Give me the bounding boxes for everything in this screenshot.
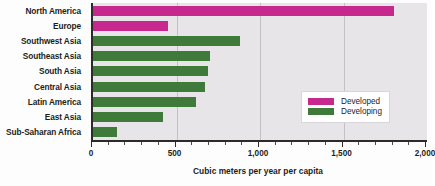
category-label: South Asia [0, 64, 86, 79]
bar-row [93, 49, 427, 64]
bar-east-asia [93, 112, 163, 122]
minor-tick-100 [108, 142, 109, 145]
minor-tick-1100 [275, 142, 276, 145]
category-axis: North America Europe Southwest Asia Sout… [0, 3, 86, 140]
minor-tick-1800 [392, 142, 393, 145]
bar-europe [93, 21, 168, 31]
major-tick-1500 [342, 142, 343, 147]
major-tick-1000 [258, 142, 259, 147]
category-label: Sub-Saharan Africa [0, 125, 86, 140]
major-tick-2000 [425, 142, 426, 147]
bar-row [93, 64, 427, 79]
bar-central-asia [93, 82, 205, 92]
legend-item-developed: Developed [308, 97, 382, 106]
bar-row [93, 33, 427, 48]
minor-tick-1300 [308, 142, 309, 145]
category-label: East Asia [0, 110, 86, 125]
bar-southeast-asia [93, 51, 210, 61]
minor-tick-1600 [358, 142, 359, 145]
category-label: Southeast Asia [0, 49, 86, 64]
category-label: Latin America [0, 94, 86, 109]
category-label: Southwest Asia [0, 33, 86, 48]
legend-swatch-icon [308, 108, 334, 115]
bar-sub-saharan-africa [93, 127, 117, 137]
bar-south-asia [93, 66, 208, 76]
minor-tick-1900 [408, 142, 409, 145]
minor-tick-800 [225, 142, 226, 145]
major-tick-500 [175, 142, 176, 147]
minor-tick-700 [208, 142, 209, 145]
bar-southwest-asia [93, 36, 240, 46]
major-tick-0 [91, 142, 92, 147]
x-tick-label-0: 0 [89, 149, 94, 158]
minor-tick-1200 [291, 142, 292, 145]
minor-tick-900 [241, 142, 242, 145]
legend: Developed Developing [301, 91, 390, 123]
category-label: Central Asia [0, 79, 86, 94]
minor-tick-1700 [375, 142, 376, 145]
plot-area: Developed Developing [91, 3, 427, 140]
minor-tick-300 [141, 142, 142, 145]
minor-tick-200 [124, 142, 125, 145]
x-axis-title: Cubic meters per year per capita [91, 166, 425, 176]
x-axis-ticks [91, 142, 425, 147]
category-label: Europe [0, 18, 86, 33]
x-tick-label-1000: 1,000 [248, 149, 269, 158]
minor-tick-1400 [325, 142, 326, 145]
x-tick-label-1500: 1,500 [331, 149, 352, 158]
legend-item-developing: Developing [308, 107, 382, 116]
minor-tick-400 [158, 142, 159, 145]
minor-tick-600 [191, 142, 192, 145]
category-label: North America [0, 3, 86, 18]
bar-latin-america [93, 97, 196, 107]
bar-row [93, 3, 427, 18]
legend-swatch-icon [308, 98, 334, 105]
legend-label: Developed [341, 97, 380, 106]
x-tick-label-2000: 2,000 [415, 149, 435, 158]
legend-label: Developing [341, 107, 382, 116]
bar-row [93, 125, 427, 140]
x-axis-tick-labels: 05001,0001,5002,000 [91, 149, 425, 161]
bar-row [93, 18, 427, 33]
bar-north-america [93, 6, 394, 16]
x-tick-label-500: 500 [168, 149, 182, 158]
